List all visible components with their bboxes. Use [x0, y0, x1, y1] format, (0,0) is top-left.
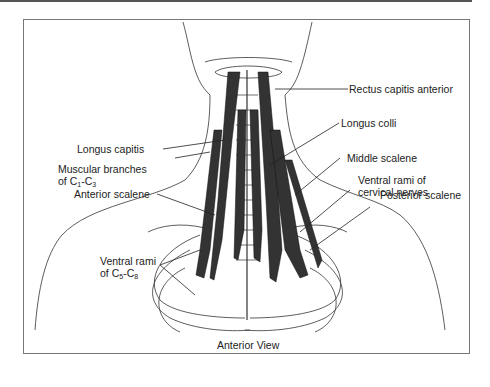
label-muscular-branches-sub2: 3 [92, 181, 96, 188]
label-muscular-branches-dash: -C [81, 175, 92, 187]
label-ventral-rami-cervical-line1: Ventral rami of [358, 174, 426, 186]
label-ventral-rami-c5c8-dash: -C [123, 267, 134, 279]
label-longus-capitis: Longus capitis [77, 143, 144, 155]
label-middle-scalene: Middle scalene [347, 152, 417, 164]
label-muscular-branches-prefix: of C [58, 175, 77, 187]
label-ventral-rami-c5c8-line1: Ventral rami [100, 255, 156, 267]
label-muscular-branches: Muscular branches of C1-C3 [58, 163, 147, 191]
figure-caption: Anterior View [217, 339, 279, 351]
label-ventral-rami-c5-c8: Ventral rami of C5-C8 [100, 255, 156, 283]
label-rectus-capitis-anterior: Rectus capitis anterior [349, 83, 453, 95]
label-muscular-branches-line1: Muscular branches [58, 163, 147, 175]
label-ventral-rami-c5c8-sub2: 8 [134, 273, 138, 280]
label-longus-colli: Longus colli [341, 117, 396, 129]
label-ventral-rami-c5c8-prefix: of C [100, 267, 119, 279]
label-posterior-scalene: Posterior scalene [380, 189, 461, 201]
label-anterior-scalene: Anterior scalene [74, 188, 150, 200]
